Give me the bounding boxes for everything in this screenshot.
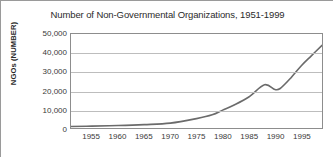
y-axis-tick-labels: 50,00040,00030,00020,00010,0000 — [1, 33, 67, 129]
y-tick-label: 30,000 — [1, 67, 67, 76]
plot-area — [70, 33, 323, 129]
x-tick-label: 1965 — [135, 132, 153, 141]
x-tick-label: 1955 — [82, 132, 100, 141]
x-tick-label: 1960 — [109, 132, 127, 141]
chart-title: Number of Non-Governmental Organizations… — [1, 9, 333, 20]
x-axis-tick-labels: 195519601965197019751980198519901995 — [70, 132, 323, 148]
gridline — [71, 53, 322, 54]
gridline — [71, 92, 322, 93]
x-tick-label: 1985 — [240, 132, 258, 141]
series-line-ngos — [71, 34, 322, 128]
gridline — [71, 72, 322, 73]
chart-figure: Number of Non-Governmental Organizations… — [0, 0, 333, 157]
x-tick-label: 1995 — [293, 132, 311, 141]
x-tick-label: 1975 — [188, 132, 206, 141]
gridline — [71, 111, 322, 112]
y-tick-label: 20,000 — [1, 86, 67, 95]
x-tick-label: 1980 — [214, 132, 232, 141]
y-tick-label: 10,000 — [1, 105, 67, 114]
x-tick-label: 1990 — [267, 132, 285, 141]
y-tick-label: 0 — [1, 125, 67, 134]
y-tick-label: 50,000 — [1, 29, 67, 38]
y-tick-label: 40,000 — [1, 48, 67, 57]
x-tick-label: 1970 — [161, 132, 179, 141]
